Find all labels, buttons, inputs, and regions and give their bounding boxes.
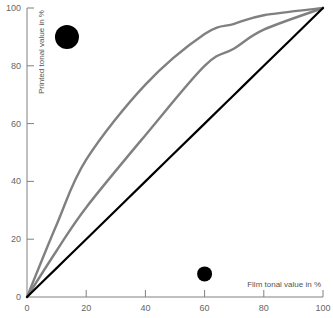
- y-axis-title: Printed tonal value in %: [37, 10, 46, 94]
- x-tick-label: 80: [259, 303, 269, 313]
- x-tick-label: 0: [24, 303, 29, 313]
- y-tick-label: 80: [11, 61, 21, 71]
- dots-group: [55, 25, 212, 281]
- y-tick-label: 40: [11, 176, 21, 186]
- linear-reference-line: [27, 8, 323, 297]
- y-axis: 020406080100: [6, 3, 34, 302]
- small-dot: [197, 266, 212, 281]
- y-tick-label: 100: [6, 3, 21, 13]
- y-tick-label: 0: [16, 292, 21, 302]
- x-tick-label: 100: [315, 303, 330, 313]
- x-tick-label: 20: [81, 303, 91, 313]
- large-dot: [55, 25, 79, 49]
- y-tick-label: 20: [11, 234, 21, 244]
- x-axis-title: Film tonal value in %: [247, 280, 321, 289]
- y-tick-label: 60: [11, 119, 21, 129]
- tonal-value-chart: 020406080100 020406080100 Film tonal val…: [0, 0, 333, 318]
- x-tick-label: 40: [140, 303, 150, 313]
- x-tick-label: 60: [200, 303, 210, 313]
- series-group: [27, 8, 323, 297]
- x-axis: 020406080100: [24, 290, 330, 313]
